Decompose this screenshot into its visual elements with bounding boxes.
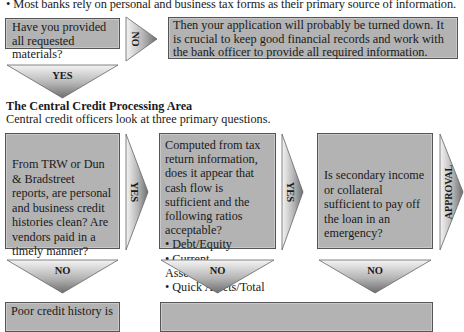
approval-label: APPROVAL <box>443 165 454 220</box>
requested-materials-question-box: Have you provided all requested material… <box>5 18 120 49</box>
credit-history-question-box: From TRW or Dun & Bradstreet reports, ar… <box>5 133 120 249</box>
turned-down-result-box: Then your application will probably be t… <box>168 17 458 59</box>
combined-outcome-box <box>160 302 433 332</box>
no-arrow-down-icon: NO <box>161 260 275 293</box>
no-arrow-down-icon: NO <box>319 260 432 293</box>
secondary-income-question-box: Is secondary income or collateral suffic… <box>317 133 433 249</box>
no-label: NO <box>367 265 383 276</box>
cash-flow-question-box: Computed from tax return information, do… <box>159 133 276 249</box>
central-credit-subtitle: Central credit officers look at three pr… <box>6 112 270 127</box>
no-arrow-right-icon: NO <box>126 17 158 61</box>
yes-arrow-down-icon: YES <box>7 65 119 98</box>
no-arrow-down-icon: NO <box>7 260 119 293</box>
no-label: NO <box>55 265 71 276</box>
yes-arrow-right-icon: YES <box>126 134 149 250</box>
no-label: NO <box>130 32 141 47</box>
approval-arrow-right-icon: APPROVAL <box>440 134 464 250</box>
poor-credit-outcome-box: Poor credit history is <box>5 302 120 332</box>
yes-label: YES <box>285 182 296 203</box>
intro-bullet: • Most banks rely on personal and busine… <box>6 0 456 12</box>
cash-flow-question-text: Computed from tax return information, do… <box>165 138 270 237</box>
yes-arrow-right-icon: YES <box>282 134 304 250</box>
no-label: NO <box>210 265 226 276</box>
ratio-item: Debt/Equity <box>165 237 270 251</box>
yes-label: YES <box>129 182 140 203</box>
yes-label: YES <box>52 70 73 81</box>
